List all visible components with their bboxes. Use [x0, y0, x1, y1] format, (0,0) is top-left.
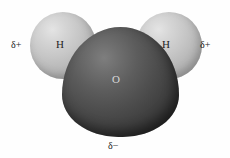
hydrogen-left-label: H — [56, 39, 64, 50]
partial-charge-bottom-label: δ− — [108, 141, 118, 151]
hydrogen-right-label: H — [162, 39, 170, 50]
partial-charge-right-label: δ+ — [200, 40, 210, 50]
water-molecule-figure: H H O δ+ δ+ δ− — [0, 0, 230, 158]
oxygen-label: O — [112, 74, 120, 85]
partial-charge-left-label: δ+ — [11, 40, 21, 50]
